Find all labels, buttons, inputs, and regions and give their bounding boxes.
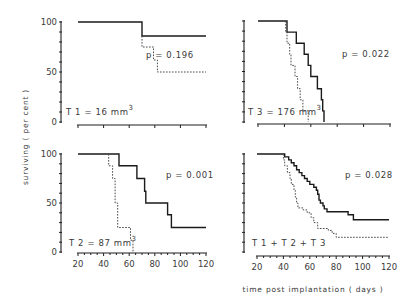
y-tick-label: 0 [52, 247, 57, 257]
survival-curve-solid [78, 22, 206, 36]
x-tick-label: 20 [252, 262, 263, 272]
y-tick-label: 50 [46, 198, 57, 208]
group-label: T 1 + T 2 + T 3 [251, 238, 326, 248]
panel-t3: T 3 = 176 mm3p = 0.022 [242, 20, 391, 127]
x-tick-label: 60 [124, 259, 135, 269]
p-value: p = 0.028 [345, 170, 393, 180]
p-value: p = 0.001 [166, 170, 214, 180]
survival-curve-solid [78, 154, 206, 228]
panel-t1: 050100T 1 = 16 mm3p = 0.196 [41, 17, 207, 128]
x-tick-label: 40 [278, 262, 289, 272]
panel-all: 20406080100120T 1 + T 2 + T 3p = 0.028 [242, 153, 397, 272]
y-tick-label: 100 [41, 149, 57, 159]
panel-t2: 05010020406080100120T 2 = 87 mm3p = 0.00… [41, 149, 214, 269]
p-value: p = 0.022 [342, 49, 390, 59]
y-tick-label: 50 [46, 67, 57, 77]
x-tick-label: 60 [304, 262, 315, 272]
y-tick-label: 100 [41, 17, 57, 27]
group-label: T 2 = 87 mm3 [68, 235, 137, 248]
x-axis-title: time post implantation ( days ) [243, 285, 384, 294]
x-tick-label: 100 [354, 262, 370, 272]
panels-layer: 050100T 1 = 16 mm3p = 0.196T 3 = 176 mm3… [41, 17, 397, 272]
x-tick-label: 80 [149, 259, 160, 269]
x-tick-label: 20 [73, 259, 84, 269]
x-tick-label: 80 [331, 262, 342, 272]
survival-curve-solid [257, 154, 389, 220]
x-tick-label: 120 [198, 259, 214, 269]
x-tick-label: 120 [381, 262, 397, 272]
x-tick-label: 40 [98, 259, 109, 269]
survival-curve-dashed [283, 154, 389, 237]
y-axis-title: surviving ( per cent ) [21, 89, 30, 185]
survival-curves-svg: 050100T 1 = 16 mm3p = 0.196T 3 = 176 mm3… [0, 0, 412, 301]
group-label: T 3 = 176 mm3 [247, 104, 322, 117]
y-tick-label: 0 [52, 117, 57, 127]
group-label: T 1 = 16 mm3 [65, 104, 134, 117]
x-tick-label: 100 [172, 259, 188, 269]
survival-figure: 050100T 1 = 16 mm3p = 0.196T 3 = 176 mm3… [0, 0, 412, 301]
p-value: p = 0.196 [146, 50, 194, 60]
